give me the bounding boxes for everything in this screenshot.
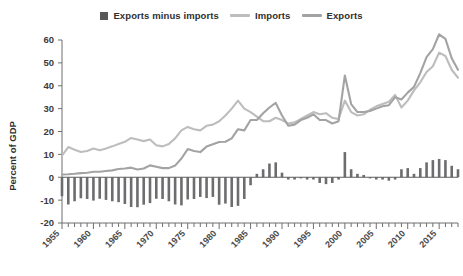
legend-item-imports: Imports (230, 10, 291, 21)
bar (155, 177, 158, 199)
bar (124, 177, 127, 204)
bar (73, 177, 76, 201)
x-tick-label: 1965 (103, 228, 124, 249)
y-tick-label: 20 (43, 126, 54, 137)
bar (281, 173, 284, 178)
bar (98, 177, 101, 199)
bar (249, 177, 252, 185)
bar (262, 169, 265, 177)
bar (80, 177, 83, 198)
x-tick-label: 1990 (260, 228, 281, 249)
bar (205, 177, 208, 198)
bar-series-exports-minus-imports (61, 152, 460, 207)
bar (174, 177, 177, 204)
bar (432, 160, 435, 177)
x-tick-label: 1955 (40, 228, 61, 249)
bar (243, 177, 246, 199)
bar (331, 177, 334, 183)
legend-label-exports: Exports (327, 10, 363, 21)
x-tick-label: 2010 (386, 228, 407, 249)
bar (438, 159, 441, 177)
bar (130, 177, 133, 207)
bar (344, 152, 347, 177)
bar (350, 169, 353, 177)
bar (193, 177, 196, 199)
bar (61, 177, 64, 196)
bar (268, 164, 271, 178)
x-tick-label: 1985 (229, 228, 250, 249)
bar (388, 177, 391, 180)
bar (425, 162, 428, 177)
x-tick-label: 1975 (166, 228, 187, 249)
bar (218, 177, 221, 204)
bar (86, 177, 89, 199)
bar (450, 166, 453, 177)
bar (406, 168, 409, 177)
bar (212, 177, 215, 197)
square-swatch-icon (100, 12, 108, 20)
legend-item-exports-minus-imports: Exports minus imports (100, 10, 219, 21)
bar (92, 177, 95, 200)
bar (274, 162, 277, 177)
x-tick-label: 1960 (72, 228, 93, 249)
bar (318, 177, 321, 183)
line-series-exports (62, 34, 458, 174)
y-axis-title-text: Percent of GDP (7, 120, 18, 190)
y-tick-label: 60 (43, 34, 54, 45)
y-tick-label: -20 (40, 217, 54, 228)
legend-label-imports: Imports (255, 10, 291, 21)
x-tick-label: 2015 (417, 228, 438, 249)
bar (161, 177, 164, 199)
exports-imports-chart: Percent of GDP 6050403020100-10-20 19551… (0, 28, 463, 276)
x-axis-tick-labels: 1955196019651970197519801985199019952000… (40, 228, 438, 249)
line-swatch-icon-exports (302, 14, 322, 17)
legend-label-exports-minus-imports: Exports minus imports (113, 10, 219, 21)
bar (224, 177, 227, 203)
bar (237, 177, 240, 206)
bar (149, 177, 152, 203)
y-tick-label: 40 (43, 80, 54, 91)
bar (111, 177, 114, 201)
line-series-imports (62, 53, 458, 156)
bar (117, 177, 120, 202)
x-tick-label: 1995 (292, 228, 313, 249)
bar (67, 177, 70, 204)
chart-legend: Exports minus imports Imports Exports (0, 10, 463, 21)
bar (136, 177, 139, 207)
y-tick-label: 30 (43, 103, 54, 114)
bar (256, 174, 259, 177)
line-swatch-icon-imports (230, 14, 250, 17)
y-axis-ticks: 6050403020100-10-20 (40, 34, 62, 228)
bar (419, 168, 422, 177)
bar (186, 177, 189, 199)
x-tick-label: 2005 (354, 228, 375, 249)
bar (457, 169, 460, 177)
legend-item-exports: Exports (302, 10, 363, 21)
bar (105, 177, 108, 200)
x-tick-label: 1980 (197, 228, 218, 249)
bar (356, 174, 359, 177)
bar (142, 177, 145, 204)
bar (199, 177, 202, 197)
line-series-group (62, 34, 458, 174)
y-tick-label: 10 (43, 149, 54, 160)
bar (413, 174, 416, 177)
x-tick-label: 1970 (134, 228, 155, 249)
bar (230, 177, 233, 207)
y-axis-title: Percent of GDP (7, 120, 18, 190)
y-tick-label: 50 (43, 57, 54, 68)
chart-page: Exports minus imports Imports Exports Pe… (0, 0, 463, 276)
x-tick-label: 2000 (323, 228, 344, 249)
y-tick-label: 0 (49, 172, 54, 183)
bar (400, 169, 403, 177)
bar (325, 177, 328, 184)
y-tick-label: -10 (40, 195, 54, 206)
bar (444, 160, 447, 177)
bar (168, 177, 171, 201)
x-axis-ticks (62, 223, 458, 229)
bar (180, 177, 183, 205)
